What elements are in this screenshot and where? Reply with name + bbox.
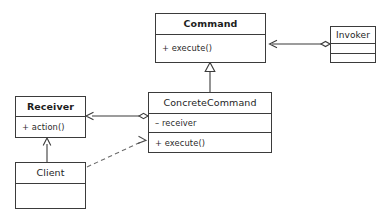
class-name-client: Client [16,163,85,183]
class-name-receiver: Receiver [16,97,85,116]
class-member-receiver-action: + action() [16,117,85,137]
hollow-diamond-icon [321,41,330,46]
class-box-client[interactable]: Client [15,162,86,209]
class-box-command[interactable]: Command + execute() [155,13,266,63]
class-attributes-compartment-invoker [331,44,375,52]
class-members-compartment-client [16,184,85,208]
class-member-command-execute: + execute() [156,35,265,62]
class-box-receiver[interactable]: Receiver + action() [15,96,86,138]
edge-invoker-command [270,40,331,48]
edge-concretecommand-receiver [86,112,148,120]
class-name-concretecommand: ConcreteCommand [149,93,271,113]
hollow-diamond-icon [139,113,148,118]
class-box-invoker[interactable]: Invoker [330,26,376,63]
edge-concretecommand-command [205,63,215,93]
class-name-invoker: Invoker [331,27,375,43]
hollow-triangle-icon [205,63,215,72]
edge-client-receiver [43,138,51,162]
class-attribute-concretecommand-receiver: – receiver [149,114,271,133]
uml-class-diagram: Command + execute() Invoker ConcreteComm… [0,0,388,219]
edge-client-concretecommand [87,136,146,167]
class-name-command: Command [156,14,265,34]
class-operation-concretecommand-execute: + execute() [149,133,271,152]
class-box-concretecommand[interactable]: ConcreteCommand – receiver + execute() [148,92,272,153]
class-operations-compartment-invoker [331,54,375,62]
